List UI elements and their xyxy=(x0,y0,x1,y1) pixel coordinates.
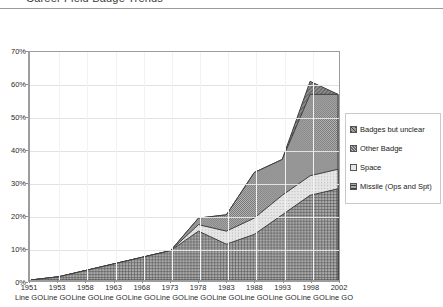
y-axis-tick-label: 60% xyxy=(2,80,26,89)
x-axis-tick-label: 1968Line GO xyxy=(128,283,156,303)
plot-area xyxy=(28,51,340,282)
legend-label: Space xyxy=(360,163,381,172)
x-axis-tick-year: 1988 xyxy=(240,283,268,293)
x-axis-tick-label: 1998Line GO xyxy=(297,283,325,303)
x-axis-tick-label: 1951Line GO xyxy=(15,283,43,303)
x-axis-tick-sublabel: Line GO xyxy=(128,293,156,303)
x-axis-tick-sublabel: Line GO xyxy=(325,293,353,303)
x-axis-tick-label: 1953Line GO xyxy=(43,283,71,303)
gridline xyxy=(30,85,339,86)
gridline-vertical xyxy=(87,52,88,280)
x-axis-tick-label: 1978Line GO xyxy=(184,283,212,303)
x-axis-tick-sublabel: Line GO xyxy=(297,293,325,303)
x-axis-tick-label: 1958Line GO xyxy=(71,283,99,303)
gridline-vertical xyxy=(313,52,314,280)
gridline-vertical xyxy=(256,52,257,280)
x-axis-tick-sublabel: Line GO xyxy=(100,293,128,303)
legend-item[interactable]: Space xyxy=(350,158,437,177)
title-divider xyxy=(0,8,443,9)
y-axis-tick-label: 10% xyxy=(2,245,26,254)
x-axis-tick-mark xyxy=(311,280,312,283)
legend-swatch-missile-ops-and-spt xyxy=(350,183,357,190)
y-axis: 0%10%20%30%40%50%60%70% xyxy=(0,0,26,307)
gridline-vertical xyxy=(228,52,229,280)
y-axis-tick-label: 20% xyxy=(2,212,26,221)
x-axis-tick-mark xyxy=(170,280,171,283)
x-axis-tick-label: 1983Line GO xyxy=(212,283,240,303)
x-axis-tick-label: 1963Line GO xyxy=(100,283,128,303)
x-axis-tick-sublabel: Line GO xyxy=(43,293,71,303)
x-axis-tick-sublabel: Line GO xyxy=(15,293,43,303)
x-axis-tick-mark xyxy=(254,280,255,283)
x-axis-tick-year: 1998 xyxy=(297,283,325,293)
x-axis-tick-sublabel: Line GO xyxy=(269,293,297,303)
x-axis-tick-sublabel: Line GO xyxy=(71,293,99,303)
gridline xyxy=(30,151,339,152)
legend-item[interactable]: Badges but unclear xyxy=(350,120,437,139)
gridline xyxy=(30,217,339,218)
x-axis-tick-year: 1968 xyxy=(128,283,156,293)
x-axis: 1951Line GO1953Line GO1958Line GO1963Lin… xyxy=(28,283,340,307)
gridline xyxy=(30,184,339,185)
legend-item[interactable]: Other Badge xyxy=(350,139,437,158)
x-axis-tick-year: 1951 xyxy=(15,283,43,293)
x-axis-tick-mark xyxy=(226,280,227,283)
x-axis-tick-mark xyxy=(85,280,86,283)
x-axis-tick-mark xyxy=(142,280,143,283)
x-axis-tick-mark xyxy=(114,280,115,283)
y-axis-tick-label: 40% xyxy=(2,146,26,155)
x-axis-tick-mark xyxy=(29,280,30,283)
y-axis-tick-label: 30% xyxy=(2,179,26,188)
gridline xyxy=(30,118,339,119)
legend-swatch-space xyxy=(350,164,357,171)
gridline-vertical xyxy=(144,52,145,280)
x-axis-tick-sublabel: Line GO xyxy=(156,293,184,303)
x-axis-tick-year: 1983 xyxy=(212,283,240,293)
x-axis-tick-year: 1973 xyxy=(156,283,184,293)
gridline-vertical xyxy=(200,52,201,280)
chart-legend: Badges but unclear Other Badge Space Mis… xyxy=(345,113,441,204)
x-axis-tick-year: 1958 xyxy=(71,283,99,293)
x-axis-tick-mark xyxy=(57,280,58,283)
legend-swatch-other-badge xyxy=(350,145,357,152)
y-axis-tick-label: 50% xyxy=(2,113,26,122)
x-axis-tick-year: 1993 xyxy=(269,283,297,293)
x-axis-tick-label: 1973Line GO xyxy=(156,283,184,303)
x-axis-tick-sublabel: Line GO xyxy=(212,293,240,303)
legend-label: Other Badge xyxy=(360,144,403,153)
x-axis-tick-mark xyxy=(283,280,284,283)
x-axis-tick-sublabel: Line GO xyxy=(184,293,212,303)
legend-swatch-badges-but-unclear xyxy=(350,126,357,133)
stacked-area-series xyxy=(30,52,339,280)
x-axis-tick-year: 2002 xyxy=(325,283,353,293)
x-axis-tick-label: 1993Line GO xyxy=(269,283,297,303)
chart-figure: Career Field Badge Trends 0%10%20%30%40%… xyxy=(0,0,443,307)
x-axis-tick-year: 1963 xyxy=(100,283,128,293)
gridline-vertical xyxy=(59,52,60,280)
legend-label: Badges but unclear xyxy=(360,125,425,134)
x-axis-tick-label: 2002Line GO xyxy=(325,283,353,303)
x-axis-tick-sublabel: Line GO xyxy=(240,293,268,303)
x-axis-tick-label: 1988Line GO xyxy=(240,283,268,303)
legend-label: Missile (Ops and Spt) xyxy=(360,182,432,191)
x-axis-tick-mark xyxy=(198,280,199,283)
y-axis-tick-label: 70% xyxy=(2,47,26,56)
legend-item[interactable]: Missile (Ops and Spt) xyxy=(350,177,437,196)
gridline-vertical xyxy=(172,52,173,280)
x-axis-tick-mark xyxy=(339,280,340,283)
page-title: Career Field Badge Trends xyxy=(26,0,163,4)
gridline-vertical xyxy=(285,52,286,280)
gridline-vertical xyxy=(116,52,117,280)
gridline xyxy=(30,250,339,251)
x-axis-tick-year: 1978 xyxy=(184,283,212,293)
x-axis-tick-year: 1953 xyxy=(43,283,71,293)
